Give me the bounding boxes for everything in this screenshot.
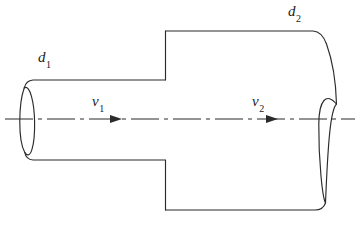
small-pipe-end-ellipse xyxy=(20,87,35,154)
pipe-diagram-canvas xyxy=(0,0,360,228)
small-pipe-top-line xyxy=(24,80,165,88)
label-v1-symbol: v xyxy=(92,93,99,109)
label-v2-symbol: v xyxy=(252,93,259,109)
large-pipe-bottom-line xyxy=(166,203,326,210)
v1-flow-arrow-icon xyxy=(110,115,122,123)
label-d2-symbol: d xyxy=(288,3,296,19)
label-d2: d2 xyxy=(288,4,301,22)
label-v2: v2 xyxy=(252,94,264,112)
large-pipe-back-edge xyxy=(327,44,337,104)
label-d1: d1 xyxy=(38,50,51,68)
pipe-diagram-figure: d1 d2 v1 v2 xyxy=(0,0,360,228)
label-v2-subscript: 2 xyxy=(259,103,264,114)
label-d1-subscript: 1 xyxy=(46,59,51,70)
label-v1-subscript: 1 xyxy=(99,103,104,114)
large-pipe-end-ellipse xyxy=(319,98,337,203)
label-v1: v1 xyxy=(92,94,104,112)
v2-flow-arrow-icon xyxy=(266,115,278,123)
label-d1-symbol: d xyxy=(38,49,46,65)
label-d2-subscript: 2 xyxy=(296,13,301,24)
small-pipe-bottom-line xyxy=(25,152,165,160)
large-pipe-top-line xyxy=(166,31,327,44)
